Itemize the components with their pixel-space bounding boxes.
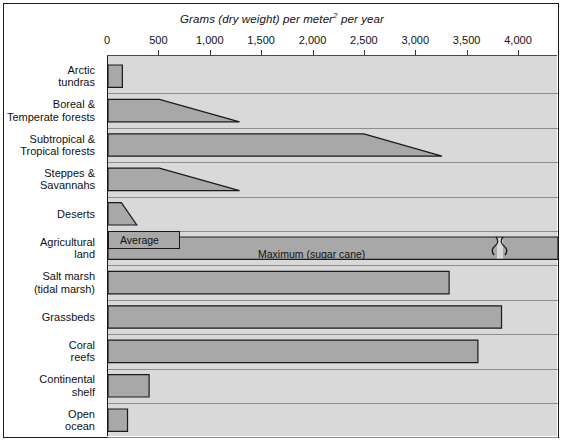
category-label-7: Grassbeds [42, 311, 95, 324]
x-tick-label-2500: 2,500 [350, 34, 378, 46]
bar-8 [108, 340, 478, 362]
bar-0 [108, 65, 122, 87]
bar-10 [108, 409, 128, 431]
x-tick-label-4000: 4,000 [504, 34, 532, 46]
x-tick-label-3000: 3,000 [401, 34, 429, 46]
chart-frame: Grams (dry weight) per meter2 per year 0… [3, 3, 559, 438]
bar-3 [108, 168, 240, 190]
chart-root: Grams (dry weight) per meter2 per year 0… [0, 0, 563, 442]
bar-7 [108, 306, 502, 328]
x-tick-label-1000: 1,000 [196, 34, 224, 46]
x-tick-label-0: 0 [104, 34, 110, 46]
axis-title-after: per year [338, 13, 384, 25]
bar-6 [108, 271, 449, 293]
category-label-0: Arctic tundras [58, 64, 95, 89]
x-tick-label-3500: 3,500 [453, 34, 481, 46]
row-separator-11 [108, 437, 558, 438]
bar-1 [108, 99, 240, 121]
x-tick-label-500: 500 [149, 34, 167, 46]
category-label-1: Boreal & Temperate forests [7, 98, 95, 123]
category-label-10: Open ocean [65, 408, 95, 433]
annotation-maximum: Maximum (sugar cane) [258, 248, 365, 260]
x-tick-label-2000: 2,000 [299, 34, 327, 46]
category-label-4: Deserts [57, 208, 95, 221]
bar-4 [108, 203, 137, 225]
category-label-8: Coral reefs [69, 339, 95, 364]
category-label-5: Agricultural land [40, 236, 95, 261]
category-label-6: Salt marsh (tidal marsh) [34, 270, 95, 295]
plot-area: AverageMaximum (sugar cane) [107, 56, 557, 436]
axis-title-before: Grams (dry weight) per meter [180, 13, 333, 25]
bar-2 [108, 134, 442, 156]
category-label-2: Subtropical & Tropical forests [20, 133, 95, 158]
annotation-average: Average [120, 234, 159, 246]
axis-title: Grams (dry weight) per meter2 per year [4, 13, 560, 25]
category-label-3: Steppes & Savannahs [40, 167, 95, 192]
bar-9 [108, 375, 149, 397]
category-label-9: Continental shelf [39, 373, 95, 398]
x-tick-label-1500: 1,500 [247, 34, 275, 46]
